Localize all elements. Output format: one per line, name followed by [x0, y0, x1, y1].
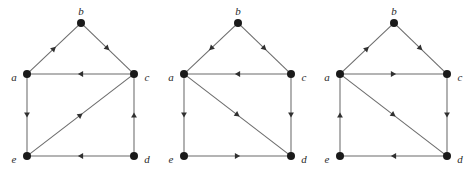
node-dot-a [23, 70, 31, 78]
graph-2: abcde [157, 0, 314, 172]
node-label-a: a [11, 71, 17, 83]
arrow-icon [288, 112, 294, 117]
node-d: d [130, 152, 150, 165]
graph-3: abcde [313, 0, 470, 172]
edge-a-to-d [186, 76, 289, 155]
edge-a-to-b [29, 25, 79, 72]
node-e: e [169, 152, 188, 165]
arrow-icon [78, 153, 83, 159]
node-c: c [130, 70, 150, 83]
node-dot-c [443, 70, 451, 78]
arrow-icon [24, 112, 30, 117]
node-dot-a [180, 70, 188, 78]
node-label-a: a [168, 71, 174, 83]
node-e: e [12, 152, 31, 165]
edge-b-to-a [186, 25, 236, 72]
edge-a-to-e [181, 77, 187, 153]
node-dot-c [287, 70, 295, 78]
arrow-icon [131, 112, 137, 117]
node-dot-e [23, 152, 31, 160]
node-dot-e [336, 152, 344, 160]
node-c: c [287, 70, 307, 83]
node-dot-b [234, 19, 242, 27]
node-a: a [11, 70, 31, 83]
arrow-icon [444, 112, 450, 117]
arrow-icon [78, 71, 83, 77]
edge-a-to-d [342, 76, 445, 155]
node-dot-c [130, 70, 138, 78]
node-b: b [234, 5, 242, 27]
edge-d-to-c [131, 77, 137, 153]
node-b: b [77, 5, 85, 27]
directed-graph-figure: abcdeabcdeabcde [0, 0, 472, 172]
node-label-d: d [301, 153, 307, 165]
node-dot-d [443, 152, 451, 160]
node-b: b [390, 5, 398, 27]
edge-d-to-e [30, 153, 131, 159]
edge-a-to-b [342, 25, 392, 72]
node-d: d [443, 152, 463, 165]
arrow-icon [391, 71, 396, 77]
edge-b-to-c [396, 25, 445, 72]
node-a: a [168, 70, 188, 83]
node-label-d: d [144, 153, 150, 165]
node-label-b: b [391, 5, 397, 17]
edge-b-to-c [83, 25, 132, 72]
node-label-e: e [169, 153, 174, 165]
edge-a-to-c [343, 71, 444, 77]
node-dot-b [390, 19, 398, 27]
arrow-icon [77, 113, 83, 118]
arrow-icon [337, 112, 343, 117]
node-dot-b [77, 19, 85, 27]
node-label-b: b [78, 5, 84, 17]
arrow-icon [391, 153, 396, 159]
node-dot-d [287, 152, 295, 160]
edge-c-to-d [444, 77, 450, 153]
edge-a-to-e [24, 77, 30, 153]
edge-c-to-a [30, 71, 131, 77]
edge-c-to-d [288, 77, 294, 153]
edge-b-to-c [240, 25, 289, 72]
node-d: d [287, 152, 307, 165]
node-e: e [325, 152, 344, 165]
node-label-c: c [302, 71, 307, 83]
arrow-icon [235, 71, 240, 77]
node-dot-e [180, 152, 188, 160]
node-dot-d [130, 152, 138, 160]
graph-1: abcde [0, 0, 157, 172]
node-label-a: a [324, 71, 330, 83]
node-label-e: e [325, 153, 330, 165]
node-label-c: c [458, 71, 463, 83]
arrow-icon [234, 111, 240, 116]
node-dot-a [336, 70, 344, 78]
edge-d-to-e [343, 153, 444, 159]
arrow-icon [181, 112, 187, 117]
arrow-icon [235, 153, 240, 159]
edge-e-to-a [337, 77, 343, 153]
node-a: a [324, 70, 344, 83]
node-label-d: d [457, 153, 463, 165]
edge-e-to-c [29, 76, 132, 155]
node-c: c [443, 70, 463, 83]
arrow-icon [390, 111, 396, 116]
node-label-b: b [235, 5, 241, 17]
node-label-e: e [12, 153, 17, 165]
edge-c-to-a [187, 71, 288, 77]
edge-e-to-d [187, 153, 288, 159]
node-label-c: c [145, 71, 150, 83]
